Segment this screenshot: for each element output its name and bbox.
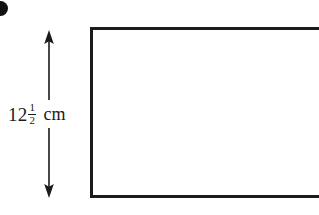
fraction-numerator: 1 — [29, 102, 37, 114]
dimension-label: 1212cm — [8, 100, 92, 128]
rectangle-shape — [90, 27, 319, 198]
fraction-denominator: 2 — [29, 115, 37, 127]
bullet-mark-icon — [0, 1, 8, 16]
dimension-unit: cm — [43, 105, 65, 123]
figure-canvas: 1212cm — [0, 0, 319, 215]
dimension-fraction: 12 — [28, 102, 36, 126]
dimension-whole-number: 12 — [8, 105, 27, 124]
